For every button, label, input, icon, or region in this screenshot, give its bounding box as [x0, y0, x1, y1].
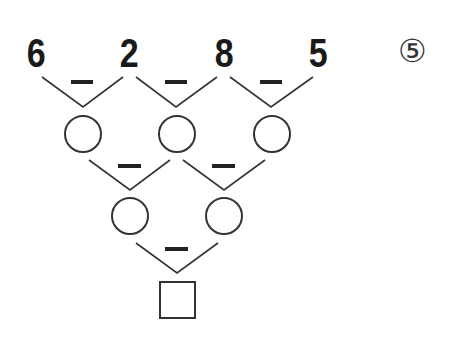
minus-icon	[212, 164, 235, 168]
final-answer-box[interactable]	[160, 282, 195, 318]
minus-icon	[118, 164, 141, 168]
answer-circle-row3-1[interactable]	[112, 198, 148, 234]
minus-icon	[165, 80, 187, 84]
answer-circle-row2-2[interactable]	[159, 116, 195, 152]
connector-lines	[42, 77, 313, 273]
answer-circle-row2-1[interactable]	[65, 116, 101, 152]
minus-icon	[165, 247, 188, 251]
subtraction-pyramid-diagram	[0, 0, 453, 343]
minus-icon	[71, 80, 93, 84]
answer-circle-row2-3[interactable]	[254, 116, 290, 152]
answer-circle-row3-2[interactable]	[206, 198, 242, 234]
minus-icon	[260, 80, 282, 84]
